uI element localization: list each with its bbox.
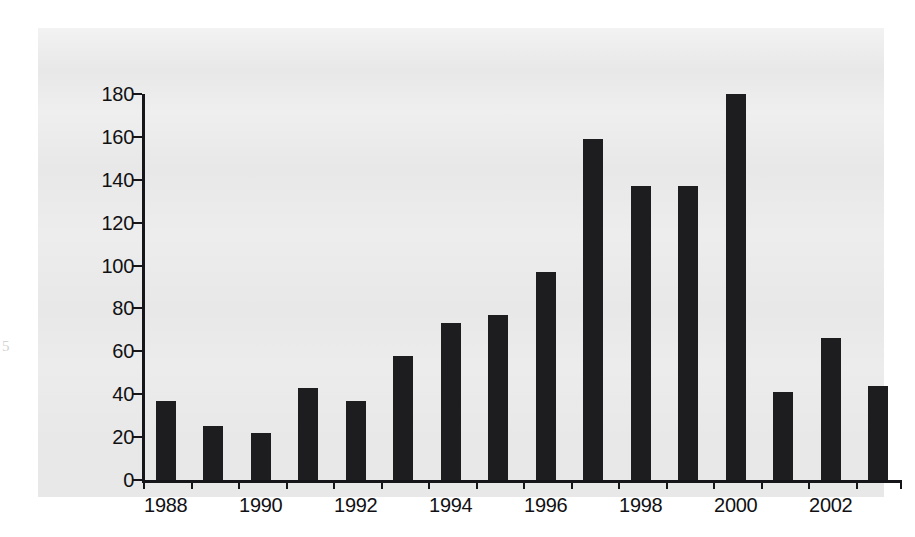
page-margin-mark: 5 [2, 338, 10, 355]
y-tick-mark [133, 350, 142, 352]
x-tick-label: 1994 [429, 494, 472, 517]
bar [678, 186, 698, 480]
x-tick-mark [856, 480, 858, 489]
bar [203, 426, 223, 480]
bar [773, 392, 793, 480]
x-tick-label: 1998 [619, 494, 662, 517]
plot-area: 020406080100120140160180 198819901992199… [142, 94, 902, 480]
x-tick-mark [618, 480, 620, 489]
bar [156, 401, 176, 480]
x-tick-label: 2000 [714, 494, 757, 517]
bar [868, 386, 888, 480]
x-tick-mark [286, 480, 288, 489]
y-tick-mark [133, 136, 142, 138]
y-tick-label: 160 [102, 125, 134, 148]
y-tick-label: 180 [102, 83, 134, 106]
bar [726, 94, 746, 480]
x-axis-line [142, 480, 902, 483]
x-tick-mark [571, 480, 573, 489]
x-tick-mark [476, 480, 478, 489]
x-tick-label: 1988 [144, 494, 187, 517]
y-tick-mark [133, 93, 142, 95]
x-tick-mark [761, 480, 763, 489]
bar [441, 323, 461, 480]
bar-series [142, 94, 902, 480]
y-tick-label: 40 [112, 383, 134, 406]
y-tick-label: 120 [102, 211, 134, 234]
x-tick-mark [523, 480, 525, 489]
bar [488, 315, 508, 480]
x-tick-mark [238, 480, 240, 489]
chart-panel: 020406080100120140160180 198819901992199… [38, 28, 884, 497]
x-tick-mark [191, 480, 193, 489]
x-tick-mark [381, 480, 383, 489]
y-tick-label: 100 [102, 254, 134, 277]
bar [821, 338, 841, 480]
y-tick-mark [133, 436, 142, 438]
x-tick-mark [713, 480, 715, 489]
x-tick-label: 1990 [239, 494, 282, 517]
x-tick-label: 2002 [809, 494, 852, 517]
x-tick-mark [900, 480, 902, 489]
bar [298, 388, 318, 480]
x-tick-mark [808, 480, 810, 489]
bar [346, 401, 366, 480]
bar [631, 186, 651, 480]
y-tick-mark [133, 307, 142, 309]
x-tick-label: 1996 [524, 494, 567, 517]
bar [536, 272, 556, 480]
x-tick-mark [666, 480, 668, 489]
x-tick-mark [428, 480, 430, 489]
y-tick-mark [133, 479, 142, 481]
y-tick-label: 60 [112, 340, 134, 363]
y-tick-mark [133, 222, 142, 224]
y-tick-mark [133, 393, 142, 395]
y-tick-label: 0 [123, 469, 134, 492]
bar [251, 433, 271, 480]
y-tick-mark [133, 265, 142, 267]
y-tick-label: 140 [102, 168, 134, 191]
y-tick-label: 20 [112, 426, 134, 449]
bar [393, 356, 413, 480]
x-tick-mark [143, 480, 145, 489]
bar [583, 139, 603, 480]
x-tick-mark [333, 480, 335, 489]
y-tick-label: 80 [112, 297, 134, 320]
x-tick-label: 1992 [334, 494, 377, 517]
y-tick-mark [133, 179, 142, 181]
